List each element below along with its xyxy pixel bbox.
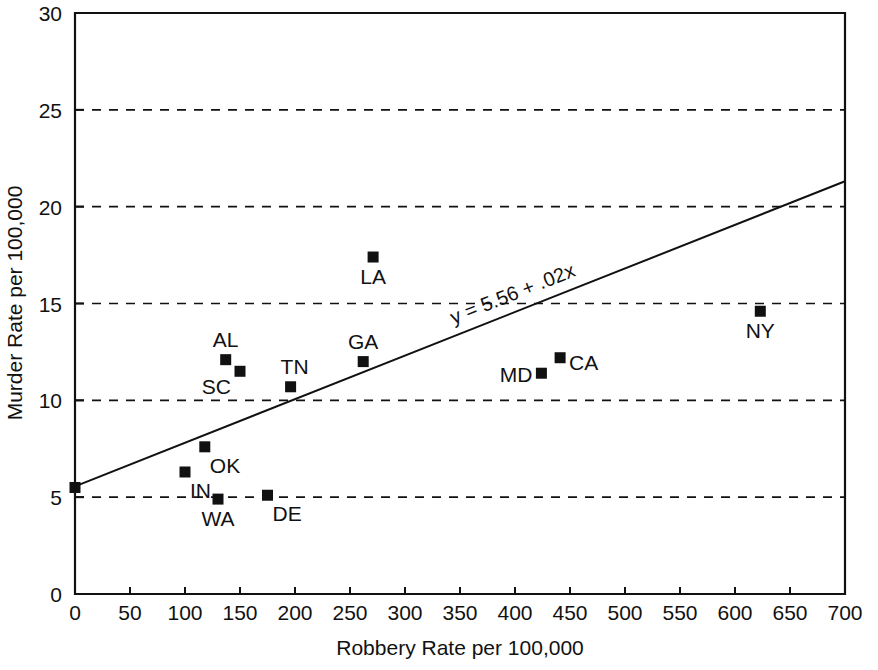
y-axis-ticks bbox=[75, 13, 84, 594]
y-tick-label-10: 10 bbox=[39, 389, 62, 412]
point-label-ny: NY bbox=[746, 319, 775, 342]
data-point-marker-tn bbox=[285, 381, 296, 392]
x-tick-label-400: 400 bbox=[497, 601, 532, 624]
x-tick-label-600: 600 bbox=[717, 601, 752, 624]
data-point-marker-in bbox=[180, 466, 191, 477]
point-label-in: IN bbox=[190, 479, 211, 502]
data-point-marker-wa bbox=[213, 494, 224, 505]
x-tick-label-500: 500 bbox=[607, 601, 642, 624]
y-tick-label-15: 15 bbox=[39, 293, 62, 316]
data-point-marker-md bbox=[536, 368, 547, 379]
y-axis-tick-labels: 051015202530 bbox=[39, 2, 62, 606]
data-point-marker-sc bbox=[235, 366, 246, 377]
plot-canvas: INOKWAALSCDETNGALAMDCANY y = 5.56 + .02x… bbox=[0, 0, 878, 670]
x-axis-title: Robbery Rate per 100,000 bbox=[336, 636, 584, 659]
data-point-marker-ny bbox=[755, 306, 766, 317]
equation-annotation: y = 5.56 + .02x bbox=[447, 259, 578, 328]
regression-equation-label: y = 5.56 + .02x bbox=[447, 259, 578, 328]
x-tick-label-50: 50 bbox=[118, 601, 141, 624]
y-tick-label-25: 25 bbox=[39, 99, 62, 122]
x-tick-label-200: 200 bbox=[277, 601, 312, 624]
fit-line-path bbox=[75, 181, 845, 486]
point-label-tn: TN bbox=[281, 355, 309, 378]
data-point-marker-la bbox=[368, 252, 379, 263]
regression-line bbox=[75, 181, 845, 486]
x-axis-tick-labels: 0501001502002503003504004505005506006507… bbox=[69, 601, 862, 624]
scatter-plot-figure: INOKWAALSCDETNGALAMDCANY y = 5.56 + .02x… bbox=[0, 0, 878, 670]
data-point-marker-ok bbox=[199, 441, 210, 452]
y-tick-label-5: 5 bbox=[50, 486, 62, 509]
x-tick-label-550: 550 bbox=[662, 601, 697, 624]
x-tick-label-350: 350 bbox=[442, 601, 477, 624]
y-axis-title: Murder Rate per 100,000 bbox=[3, 186, 26, 421]
x-tick-label-0: 0 bbox=[69, 601, 81, 624]
point-label-de: DE bbox=[273, 502, 302, 525]
data-point-marker-de bbox=[262, 490, 273, 501]
point-label-wa: WA bbox=[201, 507, 234, 530]
x-tick-label-150: 150 bbox=[222, 601, 257, 624]
data-point-marker-ga bbox=[358, 356, 369, 367]
y-tick-label-30: 30 bbox=[39, 2, 62, 25]
x-tick-label-250: 250 bbox=[332, 601, 367, 624]
point-label-ga: GA bbox=[348, 330, 378, 353]
data-markers bbox=[70, 252, 766, 505]
y-tick-label-20: 20 bbox=[39, 196, 62, 219]
point-label-sc: SC bbox=[202, 375, 231, 398]
x-tick-label-700: 700 bbox=[827, 601, 862, 624]
x-tick-label-100: 100 bbox=[167, 601, 202, 624]
point-label-ok: OK bbox=[210, 454, 240, 477]
x-tick-label-300: 300 bbox=[387, 601, 422, 624]
data-point-marker-ca bbox=[555, 352, 566, 363]
point-label-la: LA bbox=[360, 265, 386, 288]
point-label-md: MD bbox=[500, 363, 533, 386]
y-tick-label-0: 0 bbox=[50, 583, 62, 606]
data-point-marker-al bbox=[220, 354, 231, 365]
point-label-al: AL bbox=[213, 328, 239, 351]
x-tick-label-450: 450 bbox=[552, 601, 587, 624]
point-label-ca: CA bbox=[569, 351, 598, 374]
x-tick-label-650: 650 bbox=[772, 601, 807, 624]
